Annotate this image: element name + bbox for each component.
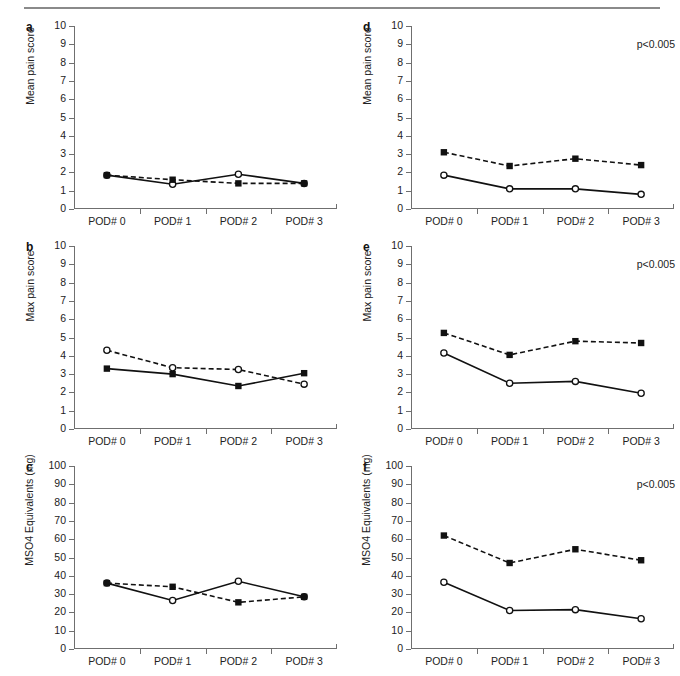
- open-circle-marker: [301, 381, 307, 387]
- y-axis-label: Max pain score: [24, 211, 36, 361]
- x-tick: [477, 429, 478, 434]
- x-tick: [271, 429, 272, 434]
- y-tick-label: 7: [397, 294, 403, 306]
- y-tick-label: 3: [60, 147, 66, 159]
- series-layer: [411, 466, 674, 649]
- x-tick-label: POD# 3: [269, 215, 339, 227]
- y-tick-label: 6: [60, 92, 66, 104]
- filled-square-marker: [506, 352, 512, 358]
- open-circle-marker: [507, 380, 513, 386]
- y-tick-label: 100: [48, 459, 66, 471]
- y-tick-label: 0: [60, 202, 66, 214]
- y-tick-label: 10: [391, 19, 403, 31]
- x-tick-label: POD# 2: [203, 435, 273, 447]
- y-tick-label: 8: [60, 56, 66, 68]
- filled-square-marker: [235, 383, 241, 389]
- y-tick-label: 40: [391, 569, 403, 581]
- panel-f: fMSO4 Equivalents (mg)p<0.00501020304050…: [349, 452, 680, 676]
- y-axis-label: Max pain score: [361, 211, 373, 361]
- x-tick-label: POD# 1: [475, 655, 545, 667]
- x-tick-label: POD# 1: [138, 435, 208, 447]
- plot-area-e: 012345678910POD# 0POD# 1POD# 2POD# 3: [411, 246, 674, 429]
- filled-square-marker: [638, 557, 644, 563]
- y-tick-label: 1: [397, 404, 403, 416]
- filled-square-marker: [572, 338, 578, 344]
- x-tick-label: POD# 3: [606, 215, 676, 227]
- x-tick-label: POD# 0: [72, 435, 142, 447]
- x-tick-label: POD# 1: [475, 215, 545, 227]
- open-circle-marker: [441, 172, 447, 178]
- open-circle-marker: [638, 191, 644, 197]
- y-tick-label: 0: [60, 642, 66, 654]
- y-tick-label: 10: [391, 624, 403, 636]
- x-tick: [608, 429, 609, 434]
- y-tick-label: 2: [60, 385, 66, 397]
- series-line-solid-open-circle: [444, 582, 641, 619]
- y-tick-label: 10: [391, 239, 403, 251]
- y-tick-label: 4: [60, 129, 66, 141]
- filled-square-marker: [235, 180, 241, 186]
- y-tick-label: 5: [60, 111, 66, 123]
- filled-square-marker: [169, 371, 175, 377]
- filled-square-marker: [301, 594, 307, 600]
- filled-square-marker: [301, 370, 307, 376]
- figure-top-rule: [24, 7, 660, 9]
- x-tick: [477, 209, 478, 214]
- x-tick: [140, 209, 141, 214]
- series-line-solid-open-circle: [107, 174, 304, 184]
- y-tick-label: 4: [60, 349, 66, 361]
- y-tick-label: 3: [397, 367, 403, 379]
- x-tick-label: POD# 0: [72, 655, 142, 667]
- filled-square-marker: [235, 599, 241, 605]
- filled-square-marker: [169, 177, 175, 183]
- y-tick-label: 0: [397, 202, 403, 214]
- y-tick-label: 5: [397, 331, 403, 343]
- y-tick-label: 1: [60, 184, 66, 196]
- y-tick-label: 0: [397, 422, 403, 434]
- y-tick-label: 9: [60, 257, 66, 269]
- y-tick-label: 2: [60, 165, 66, 177]
- filled-square-marker: [506, 560, 512, 566]
- y-tick-label: 20: [54, 605, 66, 617]
- plot-area-f: 0102030405060708090100POD# 0POD# 1POD# 2…: [411, 466, 674, 649]
- y-tick-label: 10: [54, 19, 66, 31]
- open-circle-marker: [441, 350, 447, 356]
- y-tick: 0: [69, 429, 74, 430]
- y-tick-label: 30: [391, 587, 403, 599]
- y-tick-label: 8: [397, 56, 403, 68]
- series-line-dashed-filled-square: [444, 333, 641, 355]
- panel-e: eMax pain scorep<0.005012345678910POD# 0…: [349, 232, 680, 457]
- x-tick-label: POD# 3: [269, 655, 339, 667]
- filled-square-marker: [104, 172, 110, 178]
- filled-square-marker: [441, 532, 447, 538]
- y-tick-label: 40: [54, 569, 66, 581]
- panel-d: dMean pain scorep<0.005012345678910POD# …: [349, 12, 680, 237]
- series-line-solid-open-circle: [107, 581, 304, 600]
- y-tick-label: 100: [385, 459, 403, 471]
- y-tick: 0: [406, 649, 411, 650]
- y-tick-label: 7: [60, 74, 66, 86]
- y-tick-label: 7: [60, 294, 66, 306]
- filled-square-marker: [169, 584, 175, 590]
- open-circle-marker: [572, 607, 578, 613]
- series-line-dashed-filled-square: [107, 583, 304, 602]
- x-tick-label: POD# 2: [540, 655, 610, 667]
- x-tick-label: POD# 0: [409, 435, 479, 447]
- y-tick-label: 4: [397, 349, 403, 361]
- y-tick-label: 50: [54, 551, 66, 563]
- x-tick-label: POD# 2: [203, 655, 273, 667]
- x-tick-label: POD# 3: [269, 435, 339, 447]
- filled-square-marker: [638, 162, 644, 168]
- filled-square-marker: [441, 149, 447, 155]
- x-tick: [271, 649, 272, 654]
- y-tick-label: 8: [397, 276, 403, 288]
- plot-area-b: 012345678910POD# 0POD# 1POD# 2POD# 3: [74, 246, 337, 429]
- y-tick-label: 4: [397, 129, 403, 141]
- y-axis-label: Mean pain score: [361, 0, 373, 141]
- x-tick: [271, 209, 272, 214]
- y-tick-label: 6: [397, 92, 403, 104]
- y-tick-label: 1: [397, 184, 403, 196]
- x-tick: [608, 209, 609, 214]
- series-layer: [411, 246, 674, 429]
